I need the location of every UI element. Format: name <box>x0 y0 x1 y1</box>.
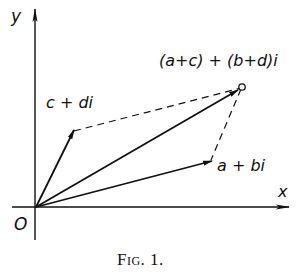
y-axis-label: y <box>11 8 21 25</box>
origin-label: O <box>14 216 27 233</box>
label-sum: (a+c) + (b+d)i <box>159 53 278 69</box>
label-c-plus-di: c + di <box>46 95 93 111</box>
vector-a-plus-bi <box>36 161 212 207</box>
caption-text: Fig. 1. <box>117 250 164 269</box>
x-axis-label: x <box>278 184 287 200</box>
complex-addition-figure: y x O c + di a + bi (a+c) + (b+d)i Fig. … <box>0 0 299 275</box>
dashed-side-right <box>211 89 241 160</box>
diagram-svg <box>0 0 299 275</box>
sum-endpoint-circle <box>239 84 245 90</box>
dashed-side-top <box>74 88 241 131</box>
figure-caption: Fig. 1. <box>117 251 164 268</box>
label-a-plus-bi: a + bi <box>217 158 265 174</box>
